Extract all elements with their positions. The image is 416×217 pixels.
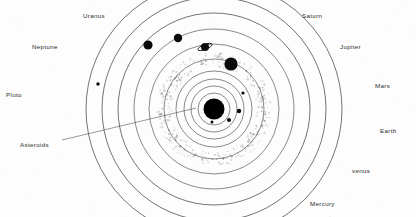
asteroid-speck [264, 125, 266, 127]
leader-line-group [62, 108, 196, 140]
asteroid-speck [163, 120, 165, 122]
asteroid-speck [250, 150, 251, 151]
asteroid-speck [200, 61, 202, 63]
asteroid-speck [186, 72, 187, 73]
asteroid-speck [268, 93, 269, 94]
asteroid-speck [172, 70, 174, 72]
asteroid-speck [250, 149, 251, 150]
asteroid-speck [164, 94, 165, 95]
asteroid-speck [266, 97, 267, 98]
asteroid-speck [264, 98, 266, 100]
asteroid-speck [251, 86, 252, 87]
paper-speck [228, 214, 229, 215]
asteroid-speck [218, 155, 219, 156]
asteroid-speck [259, 133, 261, 135]
asteroid-speck [206, 162, 207, 163]
asteroid-speck [221, 56, 222, 57]
paper-speck [299, 200, 300, 201]
asteroid-speck [169, 141, 170, 142]
asteroid-speck [169, 79, 170, 80]
paper-speck [157, 61, 158, 62]
paper-speck [119, 61, 120, 62]
asteroid-speck [261, 105, 262, 106]
asteroid-speck [170, 140, 172, 142]
asteroid-speck [175, 89, 177, 91]
paper-speck [2, 172, 3, 173]
asteroid-speck [264, 120, 266, 122]
asteroid-speck [256, 98, 257, 99]
planet-uranus [174, 34, 182, 42]
asteroid-speck [168, 103, 169, 104]
asteroid-speck [246, 136, 247, 137]
asteroid-speck [263, 121, 264, 122]
asteroid-speck [176, 134, 177, 135]
asteroid-speck [256, 117, 257, 118]
asteroid-speck [160, 122, 162, 124]
asteroid-speck [250, 81, 251, 82]
asteroid-speck [161, 126, 163, 128]
asteroid-speck [218, 55, 220, 57]
asteroid-speck [222, 67, 224, 69]
asteroid-speck [174, 127, 176, 129]
asteroid-speck [170, 98, 172, 100]
paper-speck [265, 104, 266, 105]
asteroid-speck [263, 94, 265, 96]
asteroid-speck [173, 91, 174, 92]
paper-speck [240, 140, 241, 141]
asteroid-speck [262, 107, 263, 108]
asteroid-speck [206, 160, 207, 161]
asteroid-speck [177, 152, 179, 154]
paper-speck [33, 171, 34, 172]
asteroid-speck [250, 72, 252, 74]
paper-speck [209, 16, 210, 17]
asteroid-speck [207, 162, 209, 164]
paper-speck [388, 27, 389, 28]
asteroid-speck [257, 87, 258, 88]
asteroid-speck [165, 132, 166, 133]
asteroid-speck [201, 149, 202, 150]
asteroid-speck [240, 68, 241, 69]
asteroid-speck [229, 154, 231, 156]
asteroid-speck [252, 80, 254, 82]
asteroid-speck [249, 152, 250, 153]
asteroid-speck [258, 79, 259, 80]
asteroid-speck [265, 123, 266, 124]
asteroid-speck [257, 141, 258, 142]
paper-speck [397, 97, 398, 98]
paper-speck [144, 86, 146, 88]
asteroid-speck [178, 77, 179, 78]
asteroid-speck [166, 138, 168, 140]
asteroid-speck [267, 106, 268, 107]
asteroid-speck [205, 157, 206, 158]
asteroid-speck [223, 66, 224, 67]
asteroid-speck [256, 125, 257, 126]
asteroid-speck [168, 111, 169, 112]
paper-speck [121, 196, 122, 197]
asteroid-speck [163, 98, 164, 99]
asteroid-speck [213, 55, 214, 56]
asteroid-speck [255, 128, 256, 129]
paper-speck [266, 145, 267, 146]
asteroid-speck [218, 162, 220, 164]
asteroid-speck [173, 148, 175, 150]
asteroid-speck [205, 152, 206, 153]
asteroid-speck [163, 90, 165, 92]
asteroid-speck [185, 64, 186, 65]
paper-speck [348, 107, 349, 108]
planet-jupiter [224, 57, 237, 70]
asteroid-speck [269, 101, 271, 103]
asteroid-speck [175, 146, 177, 148]
asteroid-speck [258, 92, 260, 94]
asteroid-speck [181, 78, 182, 79]
asteroid-speck [219, 57, 220, 58]
paper-speck [23, 24, 24, 25]
asteroid-speck [172, 122, 173, 123]
asteroid-speck [172, 79, 173, 80]
asteroid-speck [253, 149, 254, 150]
asteroid-speck [167, 105, 169, 107]
asteroid-speck [269, 117, 271, 119]
asteroid-speck [161, 108, 163, 110]
asteroid-speck [255, 100, 257, 102]
asteroid-speck [190, 157, 191, 158]
paper-speck [366, 42, 367, 43]
